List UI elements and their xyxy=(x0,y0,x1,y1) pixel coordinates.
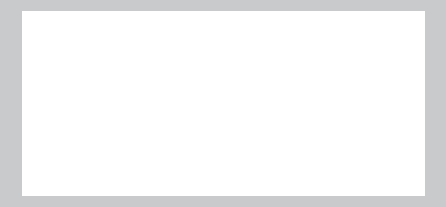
ios-scale-row-bottom xyxy=(22,103,425,195)
ios-scale-row-top xyxy=(22,17,425,105)
ios-scale-figure-panel xyxy=(22,11,425,196)
